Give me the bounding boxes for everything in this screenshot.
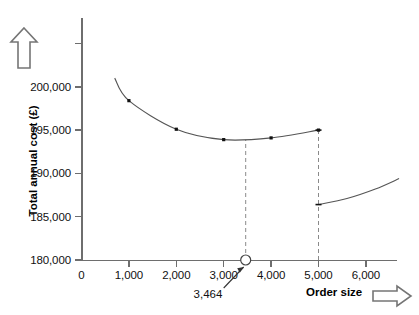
annotation-group: [224, 255, 251, 288]
data-point-2000: [175, 128, 178, 131]
curve-lower-order-band: [115, 78, 319, 140]
curve-upper-order-band: [319, 179, 400, 205]
data-point-4000: [270, 136, 273, 139]
plot-area: [0, 0, 419, 315]
data-point-3000: [222, 138, 225, 141]
annotation-leader-arrowhead: [237, 267, 244, 273]
optimum-order-quantity-label: 3,464: [194, 288, 223, 300]
x-axis-title: Order size: [306, 286, 362, 298]
data-point-1000: [127, 99, 130, 102]
chart-canvas: Total annual cost (£) 180,000185,000190,…: [0, 0, 419, 315]
optimum-order-quantity-marker: [241, 255, 251, 265]
dropline-group: [246, 130, 319, 260]
arrow-right-outline-icon: [371, 284, 413, 308]
data-point-5000: [317, 129, 320, 132]
curve-group: [115, 78, 399, 204]
